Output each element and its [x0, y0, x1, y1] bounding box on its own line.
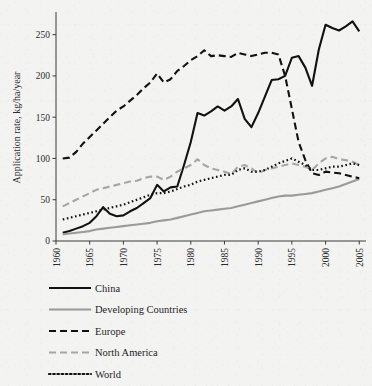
x-tick-label: 1985: [220, 248, 230, 267]
y-axis-title: Application rate, kg/ha/year: [11, 71, 22, 184]
x-tick-label: 1965: [85, 248, 95, 267]
y-tick-label: 150: [36, 113, 51, 123]
series-line-china: [63, 21, 360, 232]
legend-label-world: World: [95, 369, 122, 380]
x-tick-label: 2005: [355, 248, 365, 267]
legend-label-north-america: North America: [95, 347, 158, 358]
legend-label-developing-countries: Developing Countries: [95, 304, 187, 315]
x-tick-label: 1970: [119, 248, 129, 267]
y-tick-label: 50: [41, 195, 51, 205]
x-tick-label: 1990: [254, 248, 264, 267]
y-tick-label: 200: [36, 71, 51, 81]
y-axis-title-text: Application rate, kg/ha/year: [11, 71, 22, 184]
legend-label-china: China: [95, 283, 120, 294]
series-line-north-america: [63, 157, 360, 207]
x-tick-label: 2000: [321, 248, 331, 267]
legend-label-europe: Europe: [95, 326, 126, 337]
series-group: [63, 21, 360, 234]
x-tick-label: 1960: [52, 248, 62, 267]
x-tick-label: 1980: [186, 248, 196, 267]
figure-container: 0501001502002501960196519701975198019851…: [0, 0, 372, 386]
y-tick-label: 0: [45, 236, 50, 246]
axes-group: 0501001502002501960196519701975198019851…: [36, 12, 366, 267]
x-tick-label: 1975: [153, 248, 163, 267]
y-tick-label: 100: [36, 154, 51, 164]
chart-legend: ChinaDeveloping CountriesEuropeNorth Ame…: [49, 283, 187, 380]
line-chart: 0501001502002501960196519701975198019851…: [0, 0, 372, 386]
y-tick-label: 250: [36, 30, 51, 40]
x-tick-label: 1995: [287, 248, 297, 267]
